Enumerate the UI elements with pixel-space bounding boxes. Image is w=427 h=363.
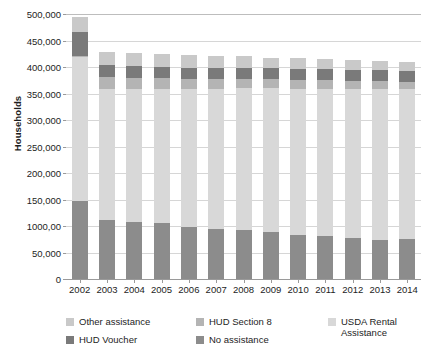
x-tick-mark [271,280,272,283]
bar-stack [72,17,88,279]
x-tick-label: 2009 [260,284,281,295]
x-tick-mark [407,280,408,283]
bar-segment [126,66,142,78]
bar-segment [99,65,115,77]
x-tick-label: 2005 [151,284,172,295]
bar-stack [290,58,306,279]
bar-segment [181,227,197,279]
bar-segment [126,78,142,89]
bar-segment [290,58,306,69]
x-tick-mark [162,280,163,283]
legend-item[interactable]: Other assistance [66,316,150,327]
bar-segment [126,222,142,279]
y-tick-label: 150,000 [27,194,61,205]
y-tick-label: 400,000 [27,62,61,73]
bar-segment [399,71,415,82]
bar-segment [154,223,170,279]
bar-stack [126,53,142,279]
bar-segment [345,81,361,89]
bar-segment [399,82,415,89]
x-tick-label: 2010 [288,284,309,295]
legend-label: HUD Section 8 [209,316,272,327]
y-tick-label: 0 [56,274,61,285]
legend-swatch-icon [66,318,74,326]
x-tick-label: 2004 [124,284,145,295]
bar-segment [181,89,197,227]
bar-stack [317,59,333,279]
legend-label: HUD Voucher [79,334,137,345]
bar-segment [208,89,224,229]
bar-segment [236,79,252,89]
bar-stack [236,56,252,279]
bar-segment [154,89,170,223]
legend-label: No assistance [209,334,269,345]
bar-segment [372,81,388,89]
x-tick-mark [107,280,108,283]
bar-segment [372,61,388,71]
x-tick-label: 2013 [369,284,390,295]
x-tick-label: 2011 [315,284,335,295]
plot-area: 050,0001000,00150,000200,000250,000300,0… [66,14,421,280]
bar-segment [290,80,306,88]
y-tick-label: 50,000 [32,247,61,258]
y-axis-title: Households [12,79,23,169]
bar-segment [236,230,252,279]
x-tick-mark [325,280,326,283]
legend-item[interactable]: USDA Rental Assistance [328,316,397,338]
x-tick-label: 2003 [96,284,117,295]
bar-segment [372,240,388,279]
bar-segment [181,79,197,89]
bar-segment [99,52,115,65]
y-tick-label: 450,000 [27,35,61,46]
legend-item[interactable]: HUD Section 8 [196,316,272,327]
bar-segment [290,89,306,235]
legend-swatch-icon [196,336,204,344]
bar-segment [208,229,224,279]
x-tick-mark [189,280,190,283]
y-tick-label: 500,000 [27,9,61,20]
bar-segment [372,70,388,81]
bar-segment [72,17,88,32]
bar-segment [99,77,115,89]
bar-stack [345,60,361,279]
bar-segment [154,78,170,89]
bar-stack [208,56,224,279]
x-tick-mark [80,280,81,283]
bar-segment [208,56,224,68]
legend-item[interactable]: HUD Voucher [66,334,137,345]
x-tick-label: 2002 [69,284,90,295]
bar-segment [99,220,115,279]
bar-segment [154,67,170,78]
bar-segment [263,68,279,79]
bar-segment [317,236,333,279]
bar-segment [263,232,279,279]
bar-segment [399,239,415,279]
bar-segment [317,80,333,88]
bar-segment [345,70,361,81]
bar-segment [208,68,224,80]
x-tick-label: 2014 [397,284,418,295]
bar-segment [345,60,361,70]
bar-segment [181,68,197,80]
bar-segment [181,55,197,67]
legend-swatch-icon [196,318,204,326]
bar-segment [290,235,306,279]
bar-series-container [66,14,421,280]
bar-stack [263,58,279,280]
x-tick-mark [134,280,135,283]
y-tick-label: 350,000 [27,88,61,99]
bar-stack [181,55,197,279]
x-tick-mark [244,280,245,283]
chart-legend: Other assistanceHUD VoucherHUD Section 8… [66,316,416,358]
y-tick-label: 1000,00 [27,221,61,232]
bar-stack [99,52,115,279]
bar-segment [345,89,361,238]
x-tick-mark [298,280,299,283]
x-tick-label: 2007 [206,284,227,295]
legend-label: Other assistance [79,316,150,327]
legend-item[interactable]: No assistance [196,334,269,345]
x-tick-label: 2006 [178,284,199,295]
bar-segment [126,53,142,66]
cropped-title [70,0,370,2]
bar-segment [399,89,415,239]
